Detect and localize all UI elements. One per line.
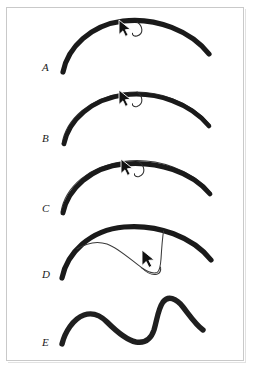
panel-b: B bbox=[6, 78, 244, 150]
arc-thin-overlay-c bbox=[61, 161, 211, 212]
arc-thick-b bbox=[64, 94, 209, 144]
figure-root: A B C bbox=[0, 0, 253, 371]
gesture-arc-a bbox=[132, 22, 141, 36]
figure-border-shadow-right bbox=[245, 9, 246, 363]
panel-d-graphic bbox=[6, 216, 244, 292]
arc-thin-overlay-b bbox=[62, 92, 210, 144]
arc-thick-c bbox=[63, 164, 210, 213]
figure-border-shadow-bottom bbox=[8, 362, 246, 363]
curve-result-e bbox=[62, 298, 203, 344]
panel-e-graphic bbox=[6, 291, 244, 361]
panel-a: A bbox=[6, 7, 244, 79]
panel-label-a: A bbox=[42, 62, 49, 73]
panel-c: C bbox=[6, 148, 244, 220]
arc-thick-a bbox=[63, 20, 209, 72]
panel-label-e: E bbox=[42, 337, 49, 348]
panel-e: E bbox=[6, 291, 244, 361]
panel-d: D bbox=[6, 216, 244, 292]
panel-label-d: D bbox=[42, 269, 50, 280]
arc-thick-d bbox=[62, 227, 211, 278]
panel-label-b: B bbox=[42, 133, 49, 144]
drag-hook-d bbox=[142, 267, 161, 274]
mouse-cursor-d bbox=[142, 250, 154, 268]
panel-label-c: C bbox=[42, 203, 49, 214]
